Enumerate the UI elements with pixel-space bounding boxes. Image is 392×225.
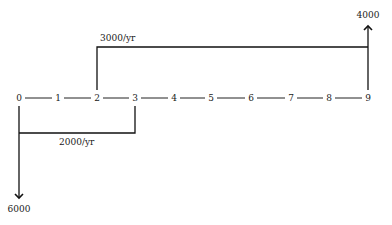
period-label-4: 4 (171, 93, 177, 103)
period-label-7: 7 (288, 93, 294, 103)
period-label-8: 8 (326, 93, 332, 103)
period-label-9: 9 (365, 93, 371, 103)
cash-flow-diagram: 0 1 2 3 4 5 6 7 8 9 3000/yr 4000 2000/yr… (0, 0, 392, 225)
expense-series-bracket: 2000/yr (19, 106, 135, 147)
final-receipt-arrow: 4000 (357, 10, 380, 90)
period-label-3: 3 (132, 93, 138, 103)
income-series-label: 3000/yr (100, 33, 136, 43)
expense-bracket-line (19, 106, 135, 133)
income-series-bracket: 3000/yr (97, 33, 368, 90)
initial-payment-label: 6000 (8, 204, 31, 214)
period-label-2: 2 (94, 93, 100, 103)
period-label-0: 0 (16, 93, 22, 103)
period-label-6: 6 (248, 93, 254, 103)
initial-payment-arrow: 6000 (8, 106, 31, 214)
period-label-5: 5 (208, 93, 214, 103)
income-bracket-line (97, 47, 368, 90)
period-label-1: 1 (55, 93, 61, 103)
final-receipt-label: 4000 (357, 10, 380, 20)
expense-series-label: 2000/yr (59, 137, 95, 147)
